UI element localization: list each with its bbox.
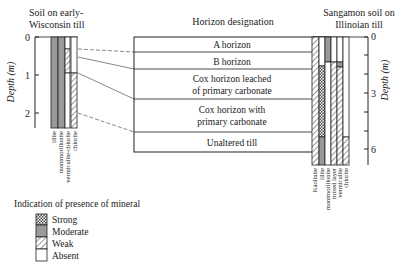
svg-text:chlorite: chlorite [71, 131, 78, 151]
svg-text:montmorillonite: montmorillonite [57, 131, 64, 173]
legend-title: Indication of presence of mineral [14, 199, 140, 209]
diagram-canvas: Soil on early- Wisconsin till Horizon de… [0, 0, 400, 274]
horizon-cox-leached-1: Cox horizon leached [193, 74, 272, 84]
horizon-cox-primary-1: Cox horizon with [199, 105, 266, 115]
right-depth-axis: 0 3 6 Depth (m) [364, 31, 391, 165]
left-title-line2: Wisconsin till [29, 19, 85, 30]
legend-swatch-weak [36, 237, 47, 249]
svg-text:Absent: Absent [52, 251, 79, 261]
svg-text:0: 0 [25, 32, 30, 43]
svg-text:1: 1 [25, 70, 30, 81]
svg-text:3: 3 [371, 88, 376, 99]
legend-swatch-absent [36, 249, 47, 261]
svg-text:illite: illite [50, 131, 57, 143]
right-mineral-columns [312, 37, 368, 165]
svg-text:vermiculite-chlorite: vermiculite-chlorite [64, 131, 71, 183]
left-title-line1: Soil on early- [29, 7, 83, 18]
svg-text:chlorite: chlorite [342, 168, 349, 188]
svg-text:Weak: Weak [52, 239, 74, 249]
svg-text:Depth (m): Depth (m) [379, 59, 391, 101]
right-title-line2: Illinoian till [335, 19, 383, 30]
horizon-unaltered: Unaltered till [207, 138, 258, 148]
center-title: Horizon designation [192, 16, 273, 27]
horizon-cox-primary-2: primary carbonate [197, 117, 266, 127]
right-title-line1: Sangamon soil on [323, 7, 395, 18]
soil-horizon-diagram: Soil on early- Wisconsin till Horizon de… [0, 0, 400, 274]
left-connector-lines [78, 49, 134, 132]
svg-text:6: 6 [371, 144, 376, 155]
horizon-a: A horizon [213, 40, 251, 50]
legend-swatch-moderate [36, 225, 47, 237]
legend: Indication of presence of mineral Strong… [14, 199, 140, 261]
left-depth-axis: 0 1 2 Depth (m) [5, 32, 39, 128]
left-mineral-columns [35, 37, 78, 128]
svg-text:2: 2 [25, 108, 30, 119]
svg-text:Kaolinite: Kaolinite [311, 168, 318, 192]
right-mineral-labels: Kaolinite illite montmorillonite mixed l… [311, 167, 349, 210]
svg-text:0: 0 [371, 31, 376, 42]
horizon-cox-leached-2: of primary carbonate [192, 86, 272, 96]
svg-text:Depth (m): Depth (m) [5, 61, 17, 103]
svg-text:Moderate: Moderate [52, 227, 88, 237]
horizon-b: B horizon [213, 57, 251, 67]
horizon-table: A horizon B horizon Cox horizon leached … [134, 37, 330, 152]
left-mineral-labels: illite montmorillonite vermiculite-chlor… [50, 131, 78, 183]
legend-swatch-strong [36, 214, 47, 225]
svg-text:Strong: Strong [52, 215, 78, 225]
